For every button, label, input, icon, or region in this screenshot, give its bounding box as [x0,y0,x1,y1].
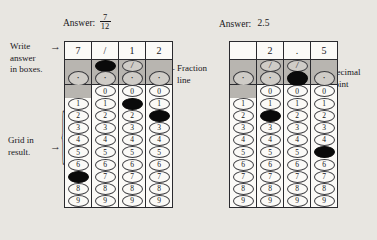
grid-cell[interactable]: 3 [65,122,91,134]
bubble-digit-1[interactable]: 1 [287,98,308,110]
bubble-digit-7[interactable]: 7 [260,171,281,183]
bubble-digit-5[interactable]: 5 [122,146,143,158]
bubble-digit-4[interactable]: 4 [314,134,335,146]
grid-cell[interactable]: 9 [119,195,145,207]
bubble-digit-7[interactable]: 7 [314,171,335,183]
bubble-digit-7[interactable]: 7 [95,171,116,183]
written-answer-box[interactable]: 1 [119,42,145,60]
grid-cell[interactable]: 1 [65,98,91,110]
grid-cell[interactable]: · [284,72,310,85]
grid-cell[interactable]: 4 [92,134,118,146]
bubble-digit-1[interactable]: 1 [233,98,254,110]
grid-cell[interactable]: 3 [311,122,337,134]
grid-cell[interactable]: 0 [119,85,145,97]
bubble-digit-9[interactable]: 9 [260,195,281,207]
bubble-decimal-point[interactable]: · [122,71,143,86]
grid-cell[interactable]: 8 [65,183,91,195]
grid-cell[interactable]: 8 [230,183,256,195]
grid-cell[interactable]: 1 [119,98,145,110]
grid-cell[interactable]: 4 [230,134,256,146]
grid-cell[interactable]: 3 [284,122,310,134]
grid-cell[interactable]: 1 [311,98,337,110]
grid-cell[interactable]: 4 [119,134,145,146]
written-answer-box[interactable]: 7 [65,42,91,60]
bubble-digit-5[interactable]: 5 [149,146,170,158]
grid-cell[interactable]: 2 [311,110,337,122]
bubble-digit-9[interactable]: 9 [95,195,116,207]
written-answer-box[interactable]: 5 [311,42,337,60]
grid-cell[interactable]: 1 [284,98,310,110]
bubble-digit-1[interactable]: 1 [314,98,335,110]
written-answer-box[interactable]: . [284,42,310,60]
answer-grid-fraction[interactable]: 7/·0123456789//·01234567891/·01234567892… [64,41,173,208]
grid-cell[interactable]: 7 [257,171,283,183]
bubble-digit-6[interactable]: 6 [122,159,143,171]
grid-cell[interactable]: 1 [146,98,172,110]
bubble-digit-4[interactable]: 4 [95,134,116,146]
grid-cell[interactable]: 8 [92,183,118,195]
grid-cell[interactable]: · [257,72,283,85]
grid-cell[interactable]: 0 [146,85,172,97]
grid-cell[interactable]: 6 [230,159,256,171]
bubble-digit-9[interactable]: 9 [314,195,335,207]
grid-cell[interactable]: 5 [257,146,283,158]
grid-cell[interactable]: 3 [257,122,283,134]
grid-cell[interactable]: 1 [257,98,283,110]
bubble-decimal-point[interactable]: · [149,71,170,86]
bubble-digit-5[interactable]: 5 [287,146,308,158]
bubble-digit-6[interactable]: 6 [68,159,89,171]
grid-cell[interactable]: 3 [146,122,172,134]
written-answer-box[interactable]: 2 [257,42,283,60]
bubble-digit-1[interactable]: 1 [149,98,170,110]
grid-cell[interactable]: 4 [311,134,337,146]
written-answer-box[interactable]: 2 [146,42,172,60]
bubble-decimal-point[interactable]: · [95,71,116,86]
grid-cell[interactable]: 6 [146,159,172,171]
grid-cell[interactable]: 6 [311,159,337,171]
grid-cell[interactable]: 9 [146,195,172,207]
bubble-digit-8[interactable]: 8 [260,183,281,195]
bubble-digit-8[interactable]: 8 [233,183,254,195]
bubble-digit-5[interactable]: 5 [233,146,254,158]
bubble-digit-7[interactable]: 7 [68,171,89,183]
grid-cell[interactable]: 4 [146,134,172,146]
grid-cell[interactable]: 7 [65,171,91,183]
bubble-digit-3[interactable]: 3 [122,122,143,134]
grid-column[interactable]: ./·0123456789 [284,42,311,207]
grid-cell[interactable]: 2 [257,110,283,122]
grid-cell[interactable]: 1 [230,98,256,110]
grid-cell[interactable]: · [311,72,337,85]
bubble-digit-2[interactable]: 2 [287,110,308,122]
grid-cell[interactable]: 5 [230,146,256,158]
grid-cell[interactable]: 7 [146,171,172,183]
grid-cell[interactable]: 9 [65,195,91,207]
grid-cell[interactable]: 2 [146,110,172,122]
bubble-digit-6[interactable]: 6 [149,159,170,171]
bubble-digit-0[interactable]: 0 [287,85,308,97]
grid-cell[interactable]: 4 [65,134,91,146]
grid-column[interactable]: /·0123456789 [230,42,257,207]
grid-cell[interactable]: 8 [119,183,145,195]
bubble-digit-2[interactable]: 2 [68,110,89,122]
written-answer-box[interactable]: / [92,42,118,60]
bubble-digit-9[interactable]: 9 [233,195,254,207]
grid-cell[interactable]: 7 [92,171,118,183]
grid-cell[interactable]: 5 [92,146,118,158]
bubble-digit-6[interactable]: 6 [95,159,116,171]
grid-cell[interactable]: 7 [119,171,145,183]
bubble-digit-8[interactable]: 8 [68,183,89,195]
grid-cell[interactable]: 2 [65,110,91,122]
grid-cell[interactable]: 9 [230,195,256,207]
bubble-digit-6[interactable]: 6 [233,159,254,171]
grid-cell[interactable]: · [92,72,118,85]
bubble-digit-4[interactable]: 4 [260,134,281,146]
grid-cell[interactable]: 1 [92,98,118,110]
grid-cell[interactable]: 2 [119,110,145,122]
bubble-digit-3[interactable]: 3 [233,122,254,134]
grid-cell[interactable]: 9 [92,195,118,207]
grid-cell[interactable]: 6 [284,159,310,171]
grid-cell[interactable]: 7 [230,171,256,183]
bubble-digit-3[interactable]: 3 [95,122,116,134]
bubble-digit-2[interactable]: 2 [95,110,116,122]
grid-column[interactable]: 2/·0123456789 [257,42,284,207]
